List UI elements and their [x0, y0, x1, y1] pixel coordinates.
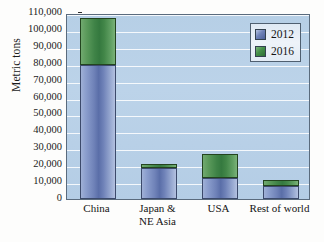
y-tick-label: 70,000 — [16, 75, 62, 85]
y-tick-mark — [78, 12, 82, 13]
bar-china — [80, 18, 116, 199]
swatch-2012-icon — [255, 29, 266, 40]
bar-segment-2012 — [80, 65, 116, 199]
y-tick-label: 20,000 — [16, 159, 62, 169]
y-tick-label: 100,000 — [16, 24, 62, 34]
bar-segment-2012 — [263, 186, 299, 199]
y-tick-label: 50,000 — [16, 108, 62, 118]
x-tick-label-rest-of-world: Rest of world — [230, 202, 324, 215]
x-tick-label-line1: Rest of world — [250, 202, 310, 214]
bar-usa — [202, 154, 238, 199]
y-tick-label: 40,000 — [16, 125, 62, 135]
legend-label-2012: 2012 — [271, 28, 294, 40]
plot-area: 2012 2016 — [66, 14, 310, 200]
y-axis-tick-labels: 110,000100,00090,00080,00070,00060,00050… — [16, 12, 62, 200]
bar-japan-ne-asia — [141, 164, 177, 199]
gridline — [67, 15, 309, 16]
y-tick-label: 30,000 — [16, 142, 62, 152]
bar-segment-2016 — [263, 180, 299, 187]
bar-segment-2012 — [141, 168, 177, 199]
bar-segment-2016 — [141, 164, 177, 168]
bar-segment-2016 — [80, 18, 116, 65]
legend-item-2016: 2016 — [255, 44, 294, 58]
x-tick-label-line1: USA — [207, 202, 229, 214]
x-tick-label-line2: NE Asia — [108, 215, 208, 228]
stacked-bar-chart-figure: Metric tons 110,000100,00090,00080,00070… — [0, 0, 324, 242]
bar-rest-of-world — [263, 180, 299, 199]
y-tick-label: 90,000 — [16, 41, 62, 51]
y-tick-label: 80,000 — [16, 58, 62, 68]
y-tick-label: 60,000 — [16, 92, 62, 102]
y-tick-label: 110,000 — [16, 7, 62, 17]
swatch-2016-icon — [255, 46, 266, 57]
bar-segment-2016 — [202, 154, 238, 178]
legend-item-2012: 2012 — [255, 27, 294, 41]
y-tick-label: 10,000 — [16, 176, 62, 186]
x-tick-label-line1: China — [83, 202, 109, 214]
legend: 2012 2016 — [250, 23, 301, 62]
bar-segment-2012 — [202, 178, 238, 199]
x-axis-tick-labels: ChinaJapan &NE AsiaUSARest of world — [66, 202, 310, 240]
legend-label-2016: 2016 — [271, 45, 294, 57]
